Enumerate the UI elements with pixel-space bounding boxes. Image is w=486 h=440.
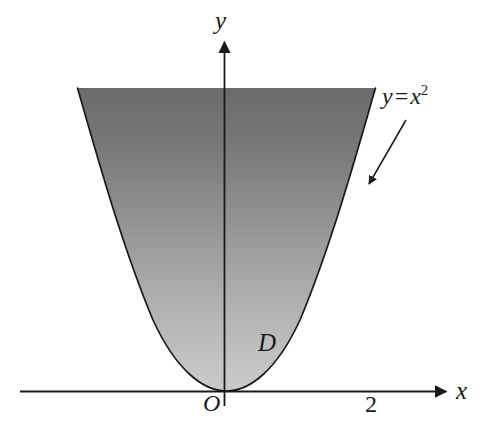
shaded-region-d [78,88,376,391]
curve-equation-equals: = [393,83,411,109]
curve-equation-label: y=x2 [382,84,428,108]
origin-label: O [203,391,220,415]
curve-equation-exponent: 2 [421,82,428,98]
curve-label-arrow-icon [369,120,406,184]
curve-equation-y: y [382,83,393,109]
figure-canvas [0,0,486,440]
curve-equation-x: x [410,83,421,109]
math-figure: y x O 2 D y=x2 [0,0,486,440]
y-axis-label: y [215,8,226,33]
region-label-d: D [258,330,276,355]
x-axis-label: x [456,378,467,403]
x-tick-label-2: 2 [365,392,377,416]
